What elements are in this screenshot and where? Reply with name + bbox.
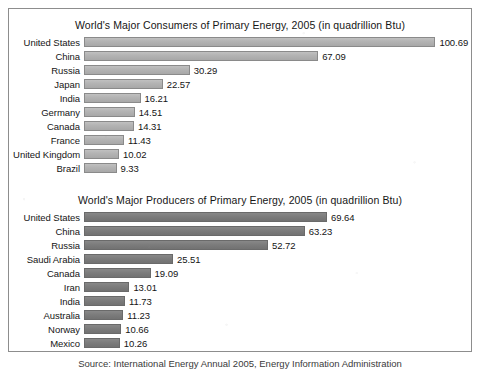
bar	[84, 107, 135, 117]
bar-category-label: United States	[9, 212, 84, 223]
bar	[84, 240, 268, 250]
bar-value-label: 52.72	[268, 240, 296, 251]
bar	[84, 212, 327, 222]
bar-category-label: Russia	[9, 65, 84, 76]
bar	[84, 163, 117, 173]
bar-value-label: 10.66	[121, 324, 149, 335]
bar-category-label: China	[9, 51, 84, 62]
producers-chart: World's Major Producers of Primary Energ…	[9, 175, 471, 350]
bar-category-label: Canada	[9, 121, 84, 132]
bar-value-label: 22.57	[163, 79, 191, 90]
bar-value-label: 14.51	[135, 107, 163, 118]
bar-value-label: 69.64	[327, 212, 355, 223]
bar	[84, 310, 123, 320]
bar-row: Iran13.01	[9, 280, 471, 294]
bar-category-label: India	[9, 93, 84, 104]
bar	[84, 226, 305, 236]
bar-row: Saudi Arabia25.51	[9, 252, 471, 266]
bar-value-label: 14.31	[134, 121, 162, 132]
bar	[84, 79, 163, 89]
bar-value-label: 16.21	[141, 93, 169, 104]
bar-value-label: 63.23	[305, 226, 333, 237]
bar	[84, 121, 134, 131]
bar-row: Russia52.72	[9, 238, 471, 252]
bar	[84, 65, 190, 75]
bar-value-label: 100.69	[435, 37, 468, 48]
bar-row: Mexico10.26	[9, 336, 471, 350]
bar-row: Russia30.29	[9, 63, 471, 77]
bar-category-label: United Kingdom	[9, 149, 84, 160]
bar-category-label: China	[9, 226, 84, 237]
source-note: Source: International Energy Annual 2005…	[8, 358, 472, 369]
bar-row: United Kingdom10.02	[9, 147, 471, 161]
bar	[84, 324, 121, 334]
bar-row: United States69.64	[9, 210, 471, 224]
bar-row: Canada19.09	[9, 266, 471, 280]
bar-category-label: Mexico	[9, 338, 84, 349]
bar	[84, 296, 125, 306]
bar-row: Australia11.23	[9, 308, 471, 322]
bar-category-label: United States	[9, 37, 84, 48]
bar-value-label: 30.29	[190, 65, 218, 76]
bar-category-label: Iran	[9, 282, 84, 293]
bar	[84, 338, 120, 348]
consumers-chart: World's Major Consumers of Primary Energ…	[9, 9, 471, 175]
bar-row: France11.43	[9, 133, 471, 147]
producers-chart-title: World's Major Producers of Primary Energ…	[9, 194, 471, 206]
consumers-chart-title: World's Major Consumers of Primary Energ…	[9, 19, 471, 31]
bar-value-label: 10.26	[120, 338, 148, 349]
bar-row: India11.73	[9, 294, 471, 308]
bar-row: Germany14.51	[9, 105, 471, 119]
bar-row: Canada14.31	[9, 119, 471, 133]
bar-value-label: 13.01	[129, 282, 157, 293]
bar-category-label: Saudi Arabia	[9, 254, 84, 265]
bar-category-label: India	[9, 296, 84, 307]
bar	[84, 254, 173, 264]
bar-row: China63.23	[9, 224, 471, 238]
bar	[84, 135, 124, 145]
bar-category-label: Germany	[9, 107, 84, 118]
bar	[84, 282, 129, 292]
bar	[84, 93, 141, 103]
bar	[84, 51, 318, 61]
charts-panel: World's Major Consumers of Primary Energ…	[8, 8, 472, 352]
bar-category-label: Canada	[9, 268, 84, 279]
bar-row: Brazil9.33	[9, 161, 471, 175]
bar	[84, 268, 151, 278]
producers-bar-rows: United States69.64China63.23Russia52.72S…	[9, 210, 471, 350]
bar-row: United States100.69	[9, 35, 471, 49]
bar-value-label: 11.23	[123, 310, 150, 321]
bar-category-label: Australia	[9, 310, 84, 321]
bar-category-label: France	[9, 135, 84, 146]
bar-value-label: 9.33	[117, 163, 139, 174]
bar-row: Norway10.66	[9, 322, 471, 336]
bar	[84, 37, 435, 47]
bar-category-label: Russia	[9, 240, 84, 251]
bar-category-label: Brazil	[9, 163, 84, 174]
bar-value-label: 11.43	[124, 135, 151, 146]
bar-category-label: Japan	[9, 79, 84, 90]
bar-value-label: 19.09	[151, 268, 179, 279]
bar-value-label: 11.73	[125, 296, 152, 307]
bar-category-label: Norway	[9, 324, 84, 335]
bar	[84, 149, 119, 159]
bar-value-label: 10.02	[119, 149, 147, 160]
bar-value-label: 67.09	[318, 51, 346, 62]
bar-row: China67.09	[9, 49, 471, 63]
bar-value-label: 25.51	[173, 254, 201, 265]
bar-row: India16.21	[9, 91, 471, 105]
bar-row: Japan22.57	[9, 77, 471, 91]
consumers-bar-rows: United States100.69China67.09Russia30.29…	[9, 35, 471, 175]
